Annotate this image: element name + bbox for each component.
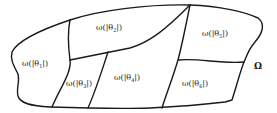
divider-4 [162,5,190,108]
region-label-6: ω(|θ6|) [182,80,208,89]
region-label-3: ω(|θ3|) [66,80,92,89]
region-label-1: ω(|θ1|) [22,60,48,69]
divider-5 [178,60,244,63]
region-label-5: ω(|θ5|) [202,30,228,39]
partition-diagram: ω(|θ1|) ω(|θ2|) ω(|θ3|) ω(|θ4|) ω(|θ5|) … [0,0,277,113]
divider-1 [52,20,70,107]
region-label-4: ω(|θ4|) [114,74,140,83]
divider-2 [70,5,190,60]
domain-label-omega: Ω [254,61,262,71]
region-label-2: ω(|θ2|) [96,24,122,33]
domain-outline [0,0,277,113]
outer-boundary [11,5,262,109]
